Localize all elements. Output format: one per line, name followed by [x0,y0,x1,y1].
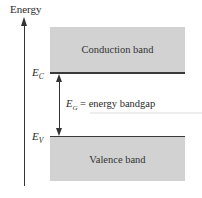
valence-band: Valence band [50,137,185,181]
gap-label-text: = energy bandgap [77,98,155,109]
conduction-band-edge-line [50,72,185,74]
ev-label-main: E [32,130,39,142]
ev-label-sub: V [39,136,44,145]
ec-label-sub: C [39,72,44,81]
valence-band-label: Valence band [89,154,145,165]
conduction-band-label: Conduction band [81,44,153,55]
energy-axis [24,24,25,186]
ec-label-main: E [32,66,39,78]
scan-artifact [90,112,202,114]
ec-label: EC [32,66,44,81]
energy-axis-label: Energy [10,3,42,15]
bandgap-arrow [59,79,60,131]
conduction-band: Conduction band [50,27,185,72]
ev-label: EV [32,130,43,145]
gap-arrow-down-icon [56,128,62,136]
bandgap-label: EG = energy bandgap [66,98,155,112]
